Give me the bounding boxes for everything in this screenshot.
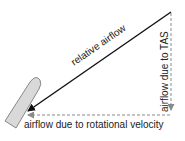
rotational-label: airflow due to rotational velocity (24, 119, 164, 130)
tas-label: airflow due to TAS (159, 31, 170, 112)
relative-airflow-arrow (28, 12, 171, 111)
airflow-vector-diagram: relative airflow airflow due to TAS airf… (0, 0, 185, 141)
relative-airflow-label: relative airflow (69, 22, 128, 68)
